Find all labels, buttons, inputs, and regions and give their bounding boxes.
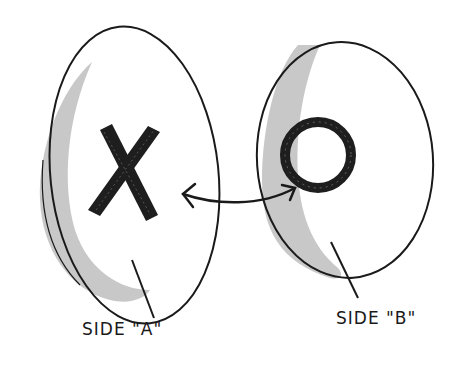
side-b-label: SIDE "B" — [336, 308, 416, 328]
x-mark — [88, 124, 160, 221]
side-b-shadow — [262, 45, 341, 279]
side-b-disc — [249, 36, 441, 298]
side-a-disc — [35, 18, 233, 332]
side-a-label: SIDE "A" — [82, 319, 162, 339]
